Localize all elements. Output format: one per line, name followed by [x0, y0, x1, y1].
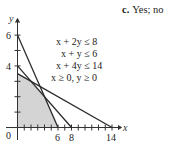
feasible-region-graph: x y 0 6 8 14 6 4 x + 2y ≤ 8 x + y ≤ 6 x … [0, 0, 196, 158]
x-tick-label-6: 6 [55, 132, 60, 143]
inequality-2: x + y ≤ 6 [61, 48, 97, 59]
y-tick-label-6: 6 [6, 30, 11, 41]
inequality-4: x ≥ 0, y ≥ 0 [51, 72, 97, 83]
y-axis-label: y [8, 13, 14, 24]
inequality-1: x + 2y ≤ 8 [56, 36, 97, 47]
inequality-3: x + 4y ≤ 14 [56, 60, 102, 71]
x-axis-label: x [122, 122, 128, 133]
x-tick-label-8: 8 [69, 132, 74, 143]
y-tick-label-4: 4 [6, 61, 11, 72]
origin-label: 0 [6, 130, 11, 141]
x-tick-label-14: 14 [106, 132, 116, 143]
